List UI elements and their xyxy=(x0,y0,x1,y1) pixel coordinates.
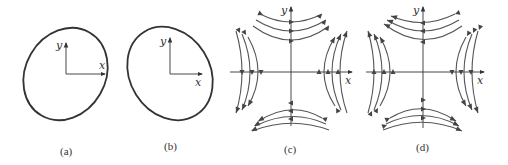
caption-a: (a) xyxy=(60,145,73,158)
x-axis-label: x xyxy=(345,74,352,87)
caption-b: (b) xyxy=(164,140,177,153)
y-axis-label: y xyxy=(159,35,167,48)
flow-lines-d xyxy=(366,10,483,133)
x-axis-label: x xyxy=(99,59,106,72)
axes-b: y x xyxy=(159,35,202,89)
y-axis-label: y xyxy=(280,4,288,17)
x-axis-label: x xyxy=(477,74,484,87)
panel-d: y x xyxy=(366,4,484,154)
y-axis-label: y xyxy=(412,4,420,17)
axes-a: y x xyxy=(55,39,106,74)
x-axis-label: x xyxy=(195,76,202,89)
caption-c: (c) xyxy=(284,143,297,156)
y-axis-label: y xyxy=(55,39,63,52)
ellipse-a xyxy=(7,12,124,135)
caption-d: (d) xyxy=(416,141,429,154)
panel-a: y x (a) xyxy=(7,12,124,158)
panel-c: y x xyxy=(230,4,352,156)
panel-b: y x (b) xyxy=(110,11,230,153)
figure: y x (a) y x (b) y x xyxy=(0,0,508,165)
